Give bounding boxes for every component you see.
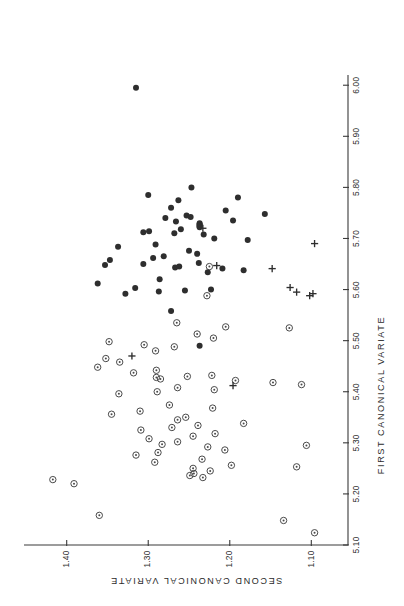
data-point-circled-dot bbox=[222, 447, 228, 453]
data-point-circled-dot bbox=[141, 342, 147, 348]
data-point-filled-circle bbox=[223, 207, 229, 213]
data-point-circled-dot bbox=[190, 433, 196, 439]
data-point-filled-circle bbox=[146, 228, 152, 234]
data-point-circled-dot bbox=[298, 381, 304, 387]
data-point-circled-dot bbox=[183, 414, 189, 420]
axes-group bbox=[24, 75, 348, 545]
ticks-group bbox=[67, 85, 349, 546]
x-axis-tick-label: 5.10 bbox=[351, 536, 361, 553]
data-point-circled-dot bbox=[199, 456, 205, 462]
data-point-filled-circle bbox=[140, 261, 146, 267]
data-point-filled-circle bbox=[197, 224, 203, 230]
data-point-plus bbox=[229, 382, 236, 389]
tick-labels-group: 5.105.205.305.405.505.605.705.805.906.00… bbox=[61, 77, 361, 568]
x-axis-tick-label: 5.60 bbox=[351, 281, 361, 298]
data-point-circled-dot bbox=[166, 402, 172, 408]
data-point-circled-dot bbox=[311, 530, 317, 536]
data-point-circled-dot bbox=[157, 376, 163, 382]
data-point-plus bbox=[287, 284, 294, 291]
data-point-plus bbox=[128, 352, 135, 359]
data-point-filled-circle bbox=[171, 230, 177, 236]
data-point-circled-dot bbox=[293, 464, 299, 470]
x-axis-tick-label: 5.20 bbox=[351, 485, 361, 502]
data-point-filled-circle bbox=[219, 266, 225, 272]
data-point-filled-circle bbox=[175, 197, 181, 203]
data-point-filled-circle bbox=[208, 287, 214, 293]
data-point-circled-dot bbox=[195, 422, 201, 428]
data-point-circled-dot bbox=[169, 424, 175, 430]
data-point-filled-circle bbox=[186, 248, 192, 254]
data-point-filled-circle bbox=[168, 308, 174, 314]
data-point-filled-circle bbox=[241, 267, 247, 273]
data-point-filled-circle bbox=[95, 280, 101, 286]
data-point-filled-circle bbox=[172, 265, 178, 271]
data-point-circled-dot bbox=[228, 462, 234, 468]
data-point-circled-dot bbox=[205, 444, 211, 450]
data-point-filled-circle bbox=[168, 205, 174, 211]
data-point-filled-circle bbox=[245, 237, 251, 243]
data-point-filled-circle bbox=[188, 184, 194, 190]
data-point-circled-dot bbox=[212, 430, 218, 436]
data-point-plus bbox=[213, 262, 220, 269]
data-point-circled-dot bbox=[280, 517, 286, 523]
data-point-filled-circle bbox=[161, 253, 167, 259]
data-point-circled-dot bbox=[222, 324, 228, 330]
data-point-circled-dot bbox=[103, 355, 109, 361]
data-point-circled-dot bbox=[207, 468, 213, 474]
x-axis-tick-label: 5.50 bbox=[351, 332, 361, 349]
data-point-filled-circle bbox=[150, 255, 156, 261]
data-point-filled-circle bbox=[173, 219, 179, 225]
data-point-plus bbox=[269, 265, 276, 272]
data-point-circled-dot bbox=[153, 374, 159, 380]
data-point-circled-dot bbox=[94, 364, 100, 370]
data-point-circled-dot bbox=[96, 512, 102, 518]
data-point-circled-dot bbox=[108, 411, 114, 417]
data-point-circled-dot bbox=[155, 449, 161, 455]
data-point-circled-dot bbox=[174, 417, 180, 423]
x-axis-tick-label: 5.30 bbox=[351, 434, 361, 451]
data-point-circled-dot bbox=[146, 436, 152, 442]
data-point-circled-dot bbox=[152, 348, 158, 354]
x-axis-title: FIRST CANONICAL VARIATE bbox=[376, 316, 386, 474]
data-point-circled-dot bbox=[138, 427, 144, 433]
data-point-filled-circle bbox=[140, 229, 146, 235]
scatter-plot-figure: 5.105.205.305.405.505.605.705.805.906.00… bbox=[0, 0, 404, 606]
data-point-filled-circle bbox=[162, 215, 168, 221]
data-point-circled-dot bbox=[116, 359, 122, 365]
data-point-circled-dot bbox=[211, 386, 217, 392]
data-point-filled-circle bbox=[157, 276, 163, 282]
data-point-circled-dot bbox=[209, 372, 215, 378]
data-point-circled-dot bbox=[152, 459, 158, 465]
data-points-group bbox=[50, 85, 319, 536]
data-point-circled-dot bbox=[303, 442, 309, 448]
x-axis-tick-label: 5.40 bbox=[351, 383, 361, 400]
data-point-filled-circle bbox=[197, 343, 203, 349]
data-point-filled-circle bbox=[201, 231, 207, 237]
data-point-filled-circle bbox=[230, 218, 236, 224]
data-point-circled-dot bbox=[194, 331, 200, 337]
data-point-filled-circle bbox=[145, 192, 151, 198]
data-point-filled-circle bbox=[178, 226, 184, 232]
data-point-filled-circle bbox=[115, 244, 121, 250]
x-axis-tick-label: 5.90 bbox=[351, 128, 361, 145]
data-point-circled-dot bbox=[106, 338, 112, 344]
plot-canvas: 5.105.205.305.405.505.605.705.805.906.00… bbox=[0, 0, 404, 606]
data-point-circled-dot bbox=[286, 325, 292, 331]
data-point-circled-dot bbox=[50, 476, 56, 482]
data-point-filled-circle bbox=[196, 260, 202, 266]
data-point-circled-dot bbox=[200, 474, 206, 480]
data-point-circled-dot bbox=[133, 452, 139, 458]
y-axis-tick-label: 1.10 bbox=[306, 550, 316, 567]
data-point-plus bbox=[293, 289, 300, 296]
y-axis-tick-label: 1.20 bbox=[224, 550, 234, 567]
y-axis-title: SECOND CANONICAL VARIATE bbox=[110, 576, 283, 586]
data-point-filled-circle bbox=[122, 291, 128, 297]
data-point-circled-dot bbox=[116, 391, 122, 397]
data-point-circled-dot bbox=[174, 384, 180, 390]
data-point-filled-circle bbox=[211, 235, 217, 241]
data-point-circled-dot bbox=[184, 373, 190, 379]
data-point-circled-dot bbox=[206, 263, 212, 269]
data-point-filled-circle bbox=[107, 257, 113, 263]
data-point-filled-circle bbox=[102, 262, 108, 268]
data-point-filled-circle bbox=[188, 214, 194, 220]
